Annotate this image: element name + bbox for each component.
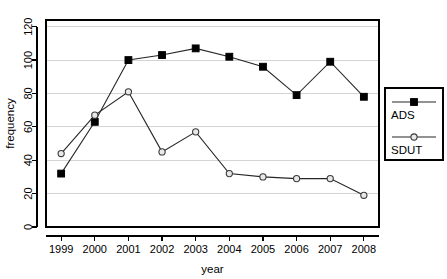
x-tick-label-2006: 2006 <box>284 243 308 255</box>
x-tick-label-2004: 2004 <box>217 243 241 255</box>
series-ads-point-2008-marker-square <box>360 93 367 100</box>
y-tick-label-120: 120 <box>22 17 34 35</box>
chart-container: 0204060801001201999200020012002200320042… <box>0 0 447 279</box>
series-sdut-point-1999-marker-circle <box>58 150 64 156</box>
y-tick-label-0: 0 <box>22 224 34 230</box>
series-ads-point-2000-marker-square <box>91 118 98 125</box>
legend-sdut-marker-circle <box>411 134 417 140</box>
series-sdut-point-2005-marker-circle <box>260 174 266 180</box>
y-axis-title: frequency <box>4 98 16 149</box>
x-axis-title: year <box>201 263 224 275</box>
y-tick-label-80: 80 <box>22 87 34 99</box>
x-tick-label-2003: 2003 <box>183 243 207 255</box>
y-tick-label-40: 40 <box>22 154 34 166</box>
series-line-sdut <box>61 92 364 196</box>
series-sdut-point-2004-marker-circle <box>226 170 232 176</box>
series-sdut-point-2008-marker-circle <box>361 192 367 198</box>
legend-label-sdut: SDUT <box>391 144 422 156</box>
series-sdut-point-2000-marker-circle <box>92 112 98 118</box>
series-ads-point-2004-marker-square <box>226 53 233 60</box>
x-tick-label-2001: 2001 <box>116 243 140 255</box>
series-sdut-point-2007-marker-circle <box>327 175 333 181</box>
series-sdut-point-2003-marker-circle <box>193 129 199 135</box>
series-sdut-point-2001-marker-circle <box>125 89 131 95</box>
legend-ads-marker-square <box>411 99 418 106</box>
series-ads-point-2002-marker-square <box>159 52 166 59</box>
legend-label-ads: ADS <box>391 109 415 121</box>
series-ads-point-1999-marker-square <box>58 170 65 177</box>
series-ads-point-2001-marker-square <box>125 57 132 64</box>
x-tick-label-2008: 2008 <box>352 243 376 255</box>
series-sdut-point-2006-marker-circle <box>293 175 299 181</box>
x-tick-label-2007: 2007 <box>318 243 342 255</box>
x-tick-label-2005: 2005 <box>251 243 275 255</box>
y-tick-label-100: 100 <box>22 51 34 69</box>
x-tick-label-2002: 2002 <box>150 243 174 255</box>
series-ads-point-2003-marker-square <box>192 45 199 52</box>
series-ads-point-2005-marker-square <box>260 63 267 70</box>
series-line-ads <box>61 48 364 173</box>
y-tick-label-60: 60 <box>22 121 34 133</box>
series-ads-point-2006-marker-square <box>293 92 300 99</box>
x-tick-label-2000: 2000 <box>83 243 107 255</box>
series-sdut-point-2002-marker-circle <box>159 149 165 155</box>
x-tick-label-1999: 1999 <box>49 243 73 255</box>
series-ads-point-2007-marker-square <box>327 58 334 65</box>
line-chart: 0204060801001201999200020012002200320042… <box>0 0 447 279</box>
y-tick-label-20: 20 <box>22 187 34 199</box>
